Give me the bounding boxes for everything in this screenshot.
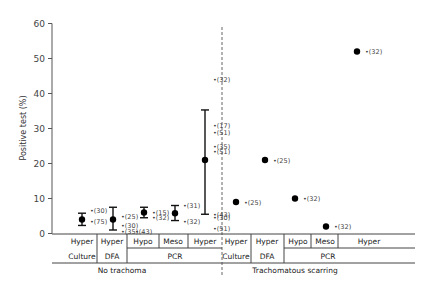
study-reference-label: •(51) <box>213 129 230 137</box>
study-reference-label: •(25) <box>273 157 290 165</box>
study-reference-label: •(25) <box>121 213 138 221</box>
y-tick-label: 10 <box>34 194 46 204</box>
y-axis: 0102030405060 <box>34 19 52 239</box>
test-label: DFA <box>105 252 120 261</box>
study-reference-label: •(32) <box>213 76 230 84</box>
study-reference-label: •(25) <box>244 199 261 207</box>
endemicity-label: Hyper <box>71 237 94 246</box>
study-reference-label: •(32) <box>183 218 200 226</box>
study-reference-label: •(31) <box>183 202 200 210</box>
study-reference-label: •(32) <box>365 48 382 56</box>
y-tick-label: 30 <box>34 124 46 134</box>
study-reference-label: •(32) <box>334 223 351 231</box>
study-reference-label: •(30) <box>90 207 107 215</box>
data-point-pcr-meso: •(32) <box>323 223 351 231</box>
endemicity-label: Hyper <box>225 237 248 246</box>
data-point-dfa-hyper: •(25) <box>262 157 290 165</box>
study-reference-label: •(32) <box>152 214 169 222</box>
study-reference-label: •(43) <box>135 228 152 236</box>
group-label: Trachomatous scarring <box>251 266 338 275</box>
y-tick-label: 40 <box>34 89 46 99</box>
data-point-pcr-meso: •(31)•(32) <box>171 202 200 226</box>
study-reference-label: •(75) <box>90 218 107 226</box>
y-tick-label: 60 <box>34 19 46 29</box>
test-label: PCR <box>168 252 183 261</box>
data-point-culture-hyper: •(25) <box>233 199 261 207</box>
test-label: PCR <box>321 252 336 261</box>
chart: 0102030405060 Positive test (%) •(30)•(7… <box>0 0 437 290</box>
test-label: Culture <box>222 252 250 261</box>
study-reference-label: •(32) <box>303 195 320 203</box>
study-reference-label: •(30) <box>213 214 230 222</box>
group-label: No trachoma <box>98 266 147 275</box>
test-label: Culture <box>68 252 96 261</box>
y-axis-title: Positive test (%) <box>19 95 28 160</box>
y-axis-label: Positive test (%) <box>19 95 28 160</box>
endemicity-label: Hypo <box>288 237 308 246</box>
endemicity-label: Hyper <box>358 237 381 246</box>
data-point-pcr-hypo: •(15)•(32) <box>140 207 169 222</box>
endemicity-label: Hyper <box>101 237 124 246</box>
study-reference-label: •(51) <box>213 225 230 233</box>
endemicity-label: Meso <box>315 237 335 246</box>
study-reference-label: •(51) <box>213 148 230 156</box>
y-tick-label: 20 <box>34 159 46 169</box>
endemicity-label: Hypo <box>133 237 153 246</box>
endemicity-label: Hyper <box>256 237 279 246</box>
data-point-pcr-hyper: •(32)•(17)•(51)•(35)•(51)•(43)•(30)•(51) <box>201 76 230 233</box>
endemicity-label: Hyper <box>194 237 217 246</box>
data-point-pcr-hypo: •(32) <box>292 195 320 203</box>
endemicity-label: Meso <box>163 237 183 246</box>
data-point-culture-hyper: •(30)•(75) <box>78 207 107 226</box>
y-tick-label: 0 <box>39 229 45 239</box>
x-axis-category-table: HyperHyperHypoMesoHyperHyperHyperHypoMes… <box>52 234 415 275</box>
data-points: •(30)•(75)•(25)•(30)•(35)•(43)•(15)•(32)… <box>78 48 382 236</box>
y-tick-label: 50 <box>34 54 46 64</box>
data-point-pcr-hyper: •(32) <box>354 48 382 56</box>
test-label: DFA <box>260 252 275 261</box>
